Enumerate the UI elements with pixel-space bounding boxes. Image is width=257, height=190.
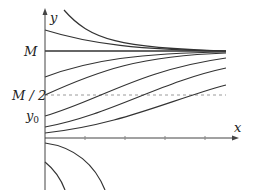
label-y0: y0 xyxy=(25,108,39,125)
logistic-diagram: y x M M / 2 y0 xyxy=(0,0,257,190)
label-M: M xyxy=(23,44,38,59)
solution-curves xyxy=(45,10,226,190)
curve-below-1 xyxy=(45,52,226,77)
curve-above-steep xyxy=(64,10,226,51)
label-y0-subscript: 0 xyxy=(33,115,39,125)
curve-below-2 xyxy=(45,53,226,95)
curve-below-5 xyxy=(45,85,226,133)
x-axis-label: x xyxy=(234,120,242,135)
x-axis-arrow-icon xyxy=(232,136,239,141)
y-axis-arrow-icon xyxy=(43,8,48,15)
curve-y0 xyxy=(45,58,226,116)
curve-negative-1 xyxy=(45,143,105,190)
y-axis-label: y xyxy=(49,10,58,25)
curve-negative-2 xyxy=(45,162,65,190)
label-M-half: M / 2 xyxy=(11,88,46,103)
curve-below-4 xyxy=(45,68,226,127)
curve-above-shallow xyxy=(45,30,226,51)
